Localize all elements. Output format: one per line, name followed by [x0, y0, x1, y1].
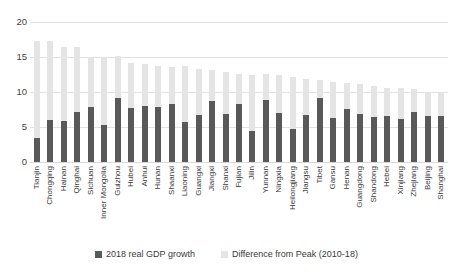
bar-segment-gdp-growth[interactable]: [411, 112, 417, 162]
bar-slot[interactable]: [232, 22, 245, 162]
bar-slot[interactable]: [165, 22, 178, 162]
bar-slot[interactable]: [273, 22, 286, 162]
bar-segment-difference-from-peak[interactable]: [101, 57, 107, 125]
bar-stack[interactable]: [88, 57, 94, 162]
bar-slot[interactable]: [111, 22, 124, 162]
bar-segment-gdp-growth[interactable]: [223, 114, 229, 162]
bar-segment-gdp-growth[interactable]: [182, 122, 188, 162]
bar-segment-difference-from-peak[interactable]: [438, 92, 444, 116]
bar-segment-difference-from-peak[interactable]: [61, 47, 67, 121]
bar-segment-gdp-growth[interactable]: [290, 129, 296, 162]
bar-segment-gdp-growth[interactable]: [209, 101, 215, 162]
bar-segment-difference-from-peak[interactable]: [74, 47, 80, 111]
bar-segment-difference-from-peak[interactable]: [263, 74, 269, 101]
bar-segment-gdp-growth[interactable]: [398, 119, 404, 162]
bar-stack[interactable]: [357, 84, 363, 162]
bar-segment-gdp-growth[interactable]: [425, 116, 431, 162]
bar-segment-gdp-growth[interactable]: [344, 109, 350, 162]
bar-segment-gdp-growth[interactable]: [101, 125, 107, 162]
bar-segment-difference-from-peak[interactable]: [344, 83, 350, 109]
bar-segment-difference-from-peak[interactable]: [411, 89, 417, 112]
bar-stack[interactable]: [101, 57, 107, 162]
bar-segment-gdp-growth[interactable]: [115, 98, 121, 162]
bar-slot[interactable]: [43, 22, 56, 162]
bar-segment-difference-from-peak[interactable]: [290, 77, 296, 129]
bar-slot[interactable]: [205, 22, 218, 162]
bar-segment-difference-from-peak[interactable]: [236, 74, 242, 104]
bar-segment-gdp-growth[interactable]: [236, 104, 242, 162]
bar-segment-gdp-growth[interactable]: [276, 113, 282, 162]
bar-stack[interactable]: [155, 66, 161, 162]
bar-stack[interactable]: [344, 83, 350, 162]
bar-stack[interactable]: [236, 74, 242, 162]
bar-stack[interactable]: [330, 82, 336, 162]
bar-stack[interactable]: [290, 77, 296, 162]
bar-slot[interactable]: [259, 22, 272, 162]
bar-slot[interactable]: [313, 22, 326, 162]
bar-stack[interactable]: [47, 41, 53, 162]
bar-segment-difference-from-peak[interactable]: [209, 70, 215, 102]
bar-segment-difference-from-peak[interactable]: [384, 88, 390, 116]
bar-segment-difference-from-peak[interactable]: [155, 66, 161, 107]
bar-stack[interactable]: [384, 88, 390, 162]
bar-slot[interactable]: [340, 22, 353, 162]
bar-stack[interactable]: [317, 80, 323, 162]
bar-stack[interactable]: [34, 41, 40, 162]
bar-segment-gdp-growth[interactable]: [384, 116, 390, 162]
bar-slot[interactable]: [367, 22, 380, 162]
bar-stack[interactable]: [169, 67, 175, 162]
bar-stack[interactable]: [276, 75, 282, 162]
bar-slot[interactable]: [246, 22, 259, 162]
bar-segment-difference-from-peak[interactable]: [303, 79, 309, 115]
bar-segment-gdp-growth[interactable]: [47, 120, 53, 162]
bar-stack[interactable]: [249, 75, 255, 163]
bar-segment-difference-from-peak[interactable]: [317, 80, 323, 98]
bar-segment-difference-from-peak[interactable]: [115, 56, 121, 98]
bar-slot[interactable]: [421, 22, 434, 162]
legend-entry[interactable]: 2018 real GDP growth: [95, 250, 195, 259]
bar-segment-difference-from-peak[interactable]: [47, 41, 53, 120]
bar-slot[interactable]: [219, 22, 232, 162]
bar-stack[interactable]: [142, 64, 148, 162]
bar-segment-gdp-growth[interactable]: [371, 117, 377, 162]
bar-slot[interactable]: [435, 22, 448, 162]
bar-slot[interactable]: [300, 22, 313, 162]
bar-slot[interactable]: [124, 22, 137, 162]
bar-stack[interactable]: [115, 56, 121, 162]
bar-stack[interactable]: [223, 72, 229, 162]
bar-segment-difference-from-peak[interactable]: [128, 63, 134, 108]
bar-slot[interactable]: [57, 22, 70, 162]
bar-segment-difference-from-peak[interactable]: [276, 75, 282, 113]
bar-slot[interactable]: [30, 22, 43, 162]
bar-slot[interactable]: [327, 22, 340, 162]
bar-segment-difference-from-peak[interactable]: [223, 72, 229, 114]
bar-stack[interactable]: [425, 92, 431, 162]
bar-segment-difference-from-peak[interactable]: [196, 69, 202, 115]
bar-segment-gdp-growth[interactable]: [317, 98, 323, 162]
bar-segment-difference-from-peak[interactable]: [34, 41, 40, 138]
bar-stack[interactable]: [128, 63, 134, 162]
bar-segment-difference-from-peak[interactable]: [142, 64, 148, 106]
bar-segment-gdp-growth[interactable]: [128, 108, 134, 162]
bar-segment-difference-from-peak[interactable]: [169, 67, 175, 104]
legend-entry[interactable]: Difference from Peak (2010-18): [221, 250, 358, 259]
bar-segment-gdp-growth[interactable]: [74, 112, 80, 162]
bar-segment-difference-from-peak[interactable]: [371, 86, 377, 117]
bar-stack[interactable]: [263, 74, 269, 162]
bar-segment-gdp-growth[interactable]: [330, 118, 336, 162]
bar-slot[interactable]: [192, 22, 205, 162]
bar-stack[interactable]: [398, 88, 404, 162]
bar-segment-difference-from-peak[interactable]: [182, 66, 188, 122]
bar-stack[interactable]: [182, 66, 188, 162]
bar-segment-gdp-growth[interactable]: [88, 107, 94, 162]
bar-slot[interactable]: [138, 22, 151, 162]
bar-slot[interactable]: [178, 22, 191, 162]
bar-segment-difference-from-peak[interactable]: [330, 82, 336, 118]
bar-stack[interactable]: [438, 92, 444, 162]
bar-slot[interactable]: [408, 22, 421, 162]
bar-segment-gdp-growth[interactable]: [34, 138, 40, 162]
bar-segment-gdp-growth[interactable]: [438, 116, 444, 162]
bar-segment-gdp-growth[interactable]: [357, 114, 363, 162]
bar-segment-gdp-growth[interactable]: [196, 115, 202, 162]
bar-segment-gdp-growth[interactable]: [303, 115, 309, 162]
